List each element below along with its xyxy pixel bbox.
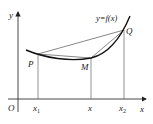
y-axis-label: y	[8, 10, 13, 20]
secant-mq	[91, 30, 124, 58]
x-axis-label: x	[139, 104, 144, 114]
secant-pq	[38, 30, 124, 54]
tick-x2-label: x2	[118, 103, 126, 114]
point-m-label: M	[80, 62, 89, 72]
origin-label: O	[8, 103, 15, 113]
point-p-label: P	[27, 59, 34, 69]
tick-x1-label: x1	[32, 103, 40, 114]
point-q-label: Q	[126, 26, 133, 36]
tick-x-label: x	[87, 103, 92, 113]
curve-label: y=f(x)	[95, 13, 117, 23]
secant-diagram: y x O y=f(x) P M Q x1 x x2	[0, 0, 153, 124]
